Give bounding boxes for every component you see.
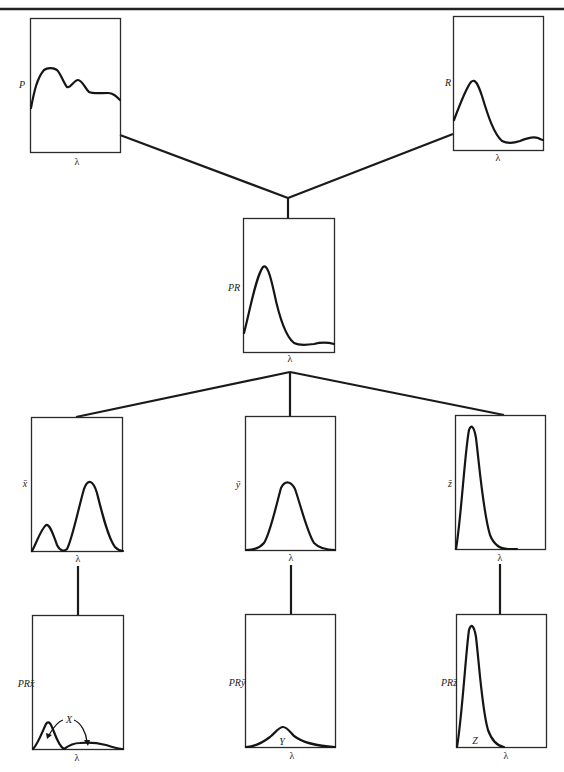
- prz-product-curve: [457, 626, 504, 747]
- y-axis-label: ȳ: [235, 479, 241, 490]
- pry-product-curve: [246, 727, 335, 747]
- y-axis-label: z̄: [447, 478, 452, 489]
- product-pr-curve: [244, 266, 334, 345]
- y-bar-color-matching-curve: [246, 482, 335, 550]
- node-prz: Z PRz̄ λ: [440, 615, 547, 762]
- plot-frame: [454, 17, 544, 151]
- y-axis-label: PRz̄: [440, 677, 458, 688]
- plot-frame: [31, 19, 121, 153]
- arrow-x-to-peak2-icon: [74, 720, 87, 742]
- x-axis-label: λ: [289, 552, 294, 563]
- y-axis-label: PRȳ: [228, 677, 246, 688]
- x-axis-label: λ: [504, 750, 509, 761]
- area-label-z: Z: [472, 735, 478, 746]
- x-axis-label: λ: [496, 152, 501, 163]
- node-pry: Y PRȳ λ: [228, 615, 336, 762]
- node-pr: PR λ: [227, 219, 335, 365]
- x-axis-label: λ: [498, 552, 503, 563]
- node-ybar: ȳ λ: [235, 417, 336, 564]
- edge-r-to-junction: [288, 134, 453, 198]
- y-axis-label: PRx̄: [17, 678, 35, 689]
- x-axis-label: λ: [288, 353, 293, 364]
- node-p: P λ: [18, 19, 121, 168]
- x-axis-label: λ: [76, 553, 81, 564]
- tristimulus-diagram: P λ R λ PR λ x̄ λ ȳ λ z̄ λ: [0, 0, 564, 772]
- x-axis-label: λ: [290, 750, 295, 761]
- area-label-y: Y: [279, 736, 286, 747]
- plot-frame: [457, 615, 547, 748]
- edge-p-to-junction: [120, 135, 288, 198]
- connectors: [76, 134, 504, 615]
- y-axis-label: x̄: [22, 478, 28, 489]
- x-axis-label: λ: [75, 156, 80, 167]
- y-axis-label: R: [444, 77, 451, 88]
- x-axis-label: λ: [75, 752, 80, 763]
- edge-pr-to-zbar: [290, 372, 504, 415]
- reflectance-curve: [454, 81, 543, 143]
- x-bar-color-matching-curve: [32, 482, 123, 551]
- y-axis-label: PR: [227, 282, 240, 293]
- z-bar-color-matching-curve: [456, 427, 517, 549]
- plot-frame: [246, 615, 336, 748]
- node-xbar: x̄ λ: [22, 418, 123, 565]
- spectral-power-curve: [31, 68, 120, 108]
- node-r: R λ: [444, 17, 544, 164]
- node-prx: X PRx̄ λ: [17, 616, 124, 764]
- edge-pr-to-xbar: [76, 372, 290, 417]
- plot-frame: [244, 219, 335, 353]
- plot-frame: [33, 616, 124, 750]
- area-label-x: X: [65, 714, 73, 725]
- node-zbar: z̄ λ: [447, 416, 545, 564]
- y-axis-label: P: [18, 79, 25, 90]
